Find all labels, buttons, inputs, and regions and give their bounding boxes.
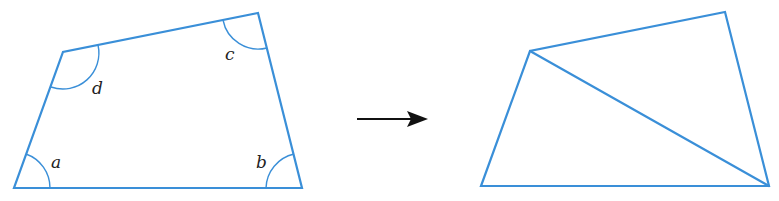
angle-label-a: a bbox=[51, 152, 61, 172]
right-quadrilateral bbox=[481, 12, 769, 186]
angle-arc-a bbox=[26, 154, 50, 188]
diagram-canvas: a b c d bbox=[0, 0, 779, 201]
quadrilateral-outline-divided bbox=[481, 12, 769, 186]
angle-label-d: d bbox=[92, 78, 103, 98]
angle-arc-b bbox=[266, 154, 294, 188]
left-quadrilateral: a b c d bbox=[14, 13, 302, 188]
angle-label-c: c bbox=[225, 44, 235, 64]
diagonal-line bbox=[530, 51, 769, 186]
transform-arrow bbox=[357, 111, 428, 127]
angle-label-b: b bbox=[256, 152, 267, 172]
